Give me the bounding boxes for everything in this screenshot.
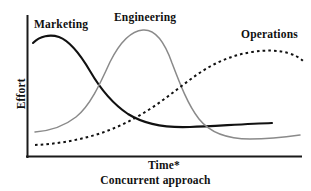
series-label-operations: Operations	[241, 29, 298, 41]
series-label-engineering: Engineering	[114, 12, 176, 24]
y-axis-title: Effort	[16, 64, 28, 124]
series-curve-marketing	[33, 36, 272, 127]
series-curve-operations	[35, 51, 303, 145]
x-axis-title: Time*	[27, 160, 301, 172]
chart-caption: Concurrent approach	[0, 175, 311, 187]
series-label-marketing: Marketing	[34, 19, 88, 31]
chart-container: Marketing Engineering Operations Effort …	[0, 0, 311, 191]
